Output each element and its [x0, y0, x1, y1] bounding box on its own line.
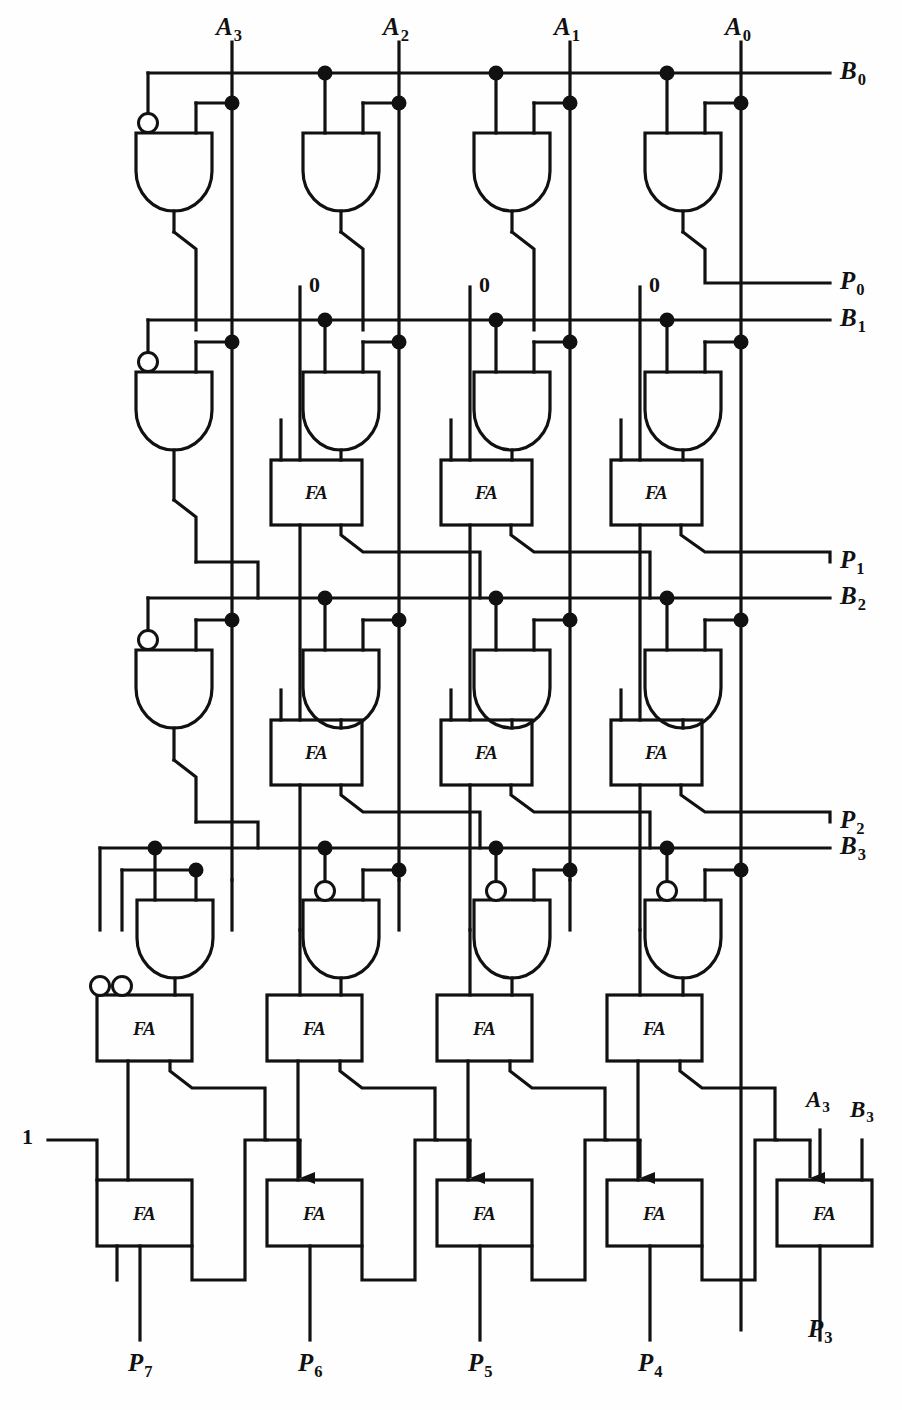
bus-row-b2 — [148, 598, 830, 650]
bus-row-b1 — [148, 320, 830, 372]
constant-zero-3: 0 — [649, 274, 660, 296]
fa-label: FA — [133, 1018, 155, 1040]
input-label-a3: A3 — [216, 14, 242, 44]
bubble-row-b3-gate3 — [487, 882, 506, 901]
final-adder-label-b3: B3 — [850, 1098, 874, 1125]
output-label-p6: P6 — [298, 1350, 323, 1380]
bubble-fa-row3-input-b — [113, 977, 132, 996]
fa-label: FA — [475, 742, 497, 764]
bubble-row-b1-gate1 — [139, 353, 158, 372]
fa-label: FA — [643, 1203, 665, 1225]
output-label-p5: P5 — [468, 1350, 493, 1380]
and-gate-row-b2 — [136, 650, 721, 822]
input-label-a0: A0 — [725, 14, 751, 44]
fa-label: FA — [303, 1018, 325, 1040]
input-label-a2: A2 — [383, 14, 409, 44]
final-adder-label-a3: A3 — [806, 1088, 830, 1115]
circuit-diagram-canvas: A3 A2 A1 A0 B0 B1 B2 B3 P0 P1 P2 0 0 0 1… — [0, 0, 902, 1410]
wires-layer — [48, 42, 872, 1340]
fa-row-3 — [97, 930, 810, 1180]
constant-zero-2: 0 — [479, 274, 490, 296]
a-input-trunks — [232, 42, 741, 1330]
bus-label-b0: B0 — [840, 58, 866, 88]
bubble-row-b3-gate2 — [316, 882, 335, 901]
fa-row-1 — [196, 420, 830, 720]
and-gate-row-b0 — [136, 133, 830, 330]
fa-label: FA — [305, 482, 327, 504]
output-label-p3: P3 — [808, 1316, 833, 1346]
bubble-row-b3-gate4 — [658, 882, 677, 901]
fa-label: FA — [303, 1203, 325, 1225]
bubble-row-b2-gate1 — [139, 631, 158, 650]
output-label-p7: P7 — [128, 1350, 153, 1380]
output-label-p0: P0 — [840, 268, 865, 298]
output-label-p2: P2 — [840, 807, 865, 837]
bus-row-b0 — [148, 73, 830, 133]
schematic-svg — [0, 0, 902, 1410]
fa-label: FA — [473, 1018, 495, 1040]
input-label-a1: A1 — [554, 14, 580, 44]
fa-label: FA — [645, 742, 667, 764]
carry-arrowheads — [300, 1140, 810, 1178]
bus-label-b1: B1 — [840, 305, 866, 335]
fa-label: FA — [813, 1203, 835, 1225]
constant-one: 1 — [22, 1126, 33, 1148]
and-gate-row-b3 — [137, 900, 721, 995]
fa-row-bottom — [48, 1130, 872, 1340]
bus-label-b2: B2 — [840, 583, 866, 613]
fa-label: FA — [133, 1203, 155, 1225]
output-label-p1: P1 — [840, 547, 865, 577]
output-label-p4: P4 — [638, 1350, 663, 1380]
left-feedthrough — [232, 880, 570, 930]
fa-label: FA — [473, 1203, 495, 1225]
constant-zero-1: 0 — [309, 274, 320, 296]
bubble-row-b0-gate1 — [139, 114, 158, 133]
bubble-fa-row3-input-a — [91, 977, 110, 996]
inverter-bubbles — [91, 114, 677, 996]
and-gate-row-b1 — [136, 372, 721, 562]
fa-label: FA — [475, 482, 497, 504]
fa-label: FA — [643, 1018, 665, 1040]
fa-label: FA — [645, 482, 667, 504]
fa-label: FA — [305, 742, 327, 764]
